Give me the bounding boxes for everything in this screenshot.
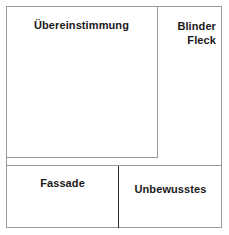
quadrant-unknown-area-label: Unbewusstes xyxy=(119,182,222,196)
quadrant-hidden-area-label: Fassade xyxy=(6,176,119,190)
quadrant-unknown-area: Unbewusstes xyxy=(119,165,222,228)
quadrant-open-area-label: Übereinstimmung xyxy=(6,18,157,32)
johari-window-diagram: Übereinstimmung Blinder Fleck Fassade Un… xyxy=(0,0,229,235)
quadrant-blind-spot: Blinder Fleck xyxy=(157,6,222,165)
quadrant-blind-spot-label: Blinder Fleck xyxy=(177,19,216,47)
quadrant-hidden-area: Fassade xyxy=(6,165,119,228)
quadrant-open-area: Übereinstimmung xyxy=(6,6,158,158)
divider-vertical-bottom xyxy=(118,166,119,228)
